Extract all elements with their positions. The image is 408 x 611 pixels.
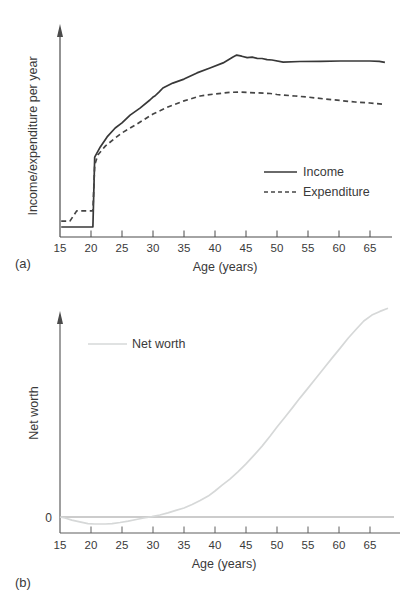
x-tick-label-a-30: 30 xyxy=(147,242,160,254)
x-tick-label-a-55: 55 xyxy=(302,242,315,254)
x-tick-label-b-55: 55 xyxy=(302,539,315,551)
y-axis-arrow-icon-a xyxy=(57,24,63,37)
x-tick-label-b-20: 20 xyxy=(85,539,98,551)
x-tick-label-b-50: 50 xyxy=(271,539,284,551)
legend-label-income: Income xyxy=(303,165,344,179)
legend-label-net-worth: Net worth xyxy=(132,337,186,351)
x-tick-label-b-25: 25 xyxy=(116,539,129,551)
figure-canvas: 1520253035404550556065IncomeExpenditureA… xyxy=(0,0,408,611)
two-panel-line-chart: 1520253035404550556065IncomeExpenditureA… xyxy=(0,0,408,611)
y-axis-arrow-icon-b xyxy=(57,311,63,324)
x-axis-title-b: Age (years) xyxy=(192,557,257,571)
x-tick-label-a-25: 25 xyxy=(116,242,129,254)
y-axis-title-a: Income/expenditure per year xyxy=(26,56,40,215)
expenditure-line xyxy=(61,92,385,221)
x-tick-label-a-65: 65 xyxy=(364,242,377,254)
x-tick-label-a-15: 15 xyxy=(54,242,67,254)
x-tick-label-b-60: 60 xyxy=(333,539,346,551)
y-axis-title-b: Net worth xyxy=(27,386,41,440)
panel-a-label: (a) xyxy=(15,256,31,271)
x-tick-label-b-35: 35 xyxy=(178,539,191,551)
legend-label-expenditure: Expenditure xyxy=(303,185,370,199)
x-tick-label-b-40: 40 xyxy=(209,539,222,551)
zero-tick-label: 0 xyxy=(45,511,52,525)
panel-b-label: (b) xyxy=(15,575,31,590)
x-tick-label-a-40: 40 xyxy=(209,242,222,254)
x-tick-label-a-60: 60 xyxy=(333,242,346,254)
x-tick-label-b-45: 45 xyxy=(240,539,253,551)
x-tick-label-b-65: 65 xyxy=(364,539,377,551)
x-axis-title-a: Age (years) xyxy=(193,260,258,274)
x-tick-label-b-15: 15 xyxy=(54,539,67,551)
x-tick-label-a-20: 20 xyxy=(85,242,98,254)
x-tick-label-b-30: 30 xyxy=(147,539,160,551)
net-worth-line xyxy=(60,308,388,524)
income-line xyxy=(61,55,385,227)
x-tick-label-a-35: 35 xyxy=(178,242,191,254)
x-tick-label-a-45: 45 xyxy=(240,242,253,254)
x-tick-label-a-50: 50 xyxy=(271,242,284,254)
